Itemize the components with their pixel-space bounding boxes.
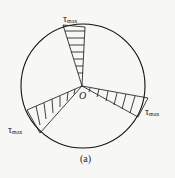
- shear-stress-diagram: τmax τmax τmax O (a): [0, 0, 175, 178]
- stress-wedge-right: [82, 86, 148, 117]
- stress-wedge-top: [63, 25, 85, 86]
- tau-max-left-label: τmax: [8, 124, 22, 135]
- figure-caption: (a): [80, 153, 91, 165]
- center-label: O: [79, 90, 86, 101]
- tau-max-right-label: τmax: [145, 106, 159, 117]
- tau-max-top-label: τmax: [63, 13, 77, 24]
